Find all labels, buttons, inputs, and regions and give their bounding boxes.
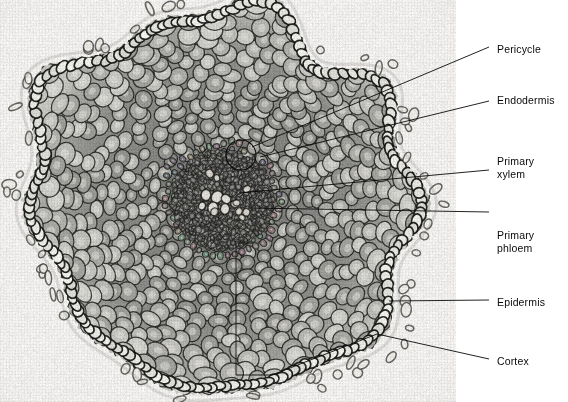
vignette-overlay: [0, 0, 456, 402]
label-epidermis: Epidermis: [497, 296, 545, 309]
micrograph-panel: [0, 0, 456, 402]
label-cortex: Cortex: [497, 355, 529, 368]
label-primary-phloem: Primary phloem: [497, 229, 534, 254]
label-primary-xylem: Primary xylem: [497, 155, 534, 180]
label-endodermis: Endodermis: [497, 94, 555, 107]
label-pericycle: Pericycle: [497, 43, 541, 56]
figure-root-cross-section: Pericycle Endodermis Primary xylem Prima…: [0, 0, 568, 402]
